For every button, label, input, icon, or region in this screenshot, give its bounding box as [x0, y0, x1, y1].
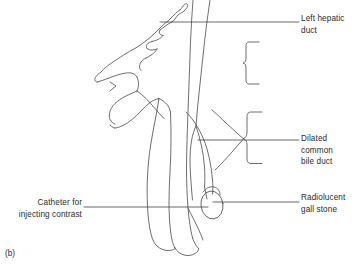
bracket-upper: [243, 42, 259, 84]
label-catheter-for-injecting-contrast: Catheter for injecting contrast: [8, 197, 82, 220]
left-hepatic-duct-outline: [95, 4, 188, 128]
gall-bladder-outline: [109, 91, 164, 128]
catheter-outline: [147, 99, 175, 251]
label-radiolucent-gall-stone: Radiolucent gall stone: [301, 192, 345, 215]
common-bile-duct-outline: [187, 0, 211, 238]
label-left-hepatic-duct: Left hepatic duct: [301, 13, 345, 36]
label-dilated-common-bile-duct: Dilated common bile duct: [301, 133, 333, 168]
gall-stone-outline: [199, 187, 225, 221]
figure-container: Left hepatic duct Dilated common bile du…: [0, 0, 358, 272]
cystic-duct-outline: [175, 112, 213, 256]
figure-label: (b): [5, 249, 15, 258]
bracket-lower: [243, 112, 262, 164]
